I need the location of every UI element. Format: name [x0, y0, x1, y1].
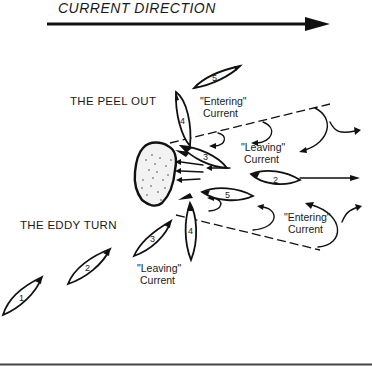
peel-out-boat-2: 2 [251, 171, 300, 185]
leaving-current-top-line1: "Leaving" [241, 141, 286, 153]
peel-out-label: THE PEEL OUT [70, 95, 156, 107]
eddy-turn-label: THE EDDY TURN [20, 219, 117, 231]
boat-number: 3 [203, 152, 208, 162]
eddy-maneuvers-diagram: CURRENT DIRECTION [0, 0, 372, 366]
boat-number: 2 [273, 175, 278, 185]
boat-number: 2 [85, 263, 90, 273]
peel-out-boat-5: 5 [194, 66, 240, 88]
leaving-current-bottom-line2: Current [140, 274, 175, 286]
eddy-turn-boat-4: 4 [186, 203, 197, 260]
leaving-current-top-line2: Current [244, 153, 279, 165]
entering-current-top-line2: Current [203, 107, 238, 119]
boat-number: 5 [225, 190, 230, 200]
current-direction-arrow [47, 17, 330, 31]
entering-current-bottom-line1: "Entering" [284, 211, 331, 223]
peel-out-boat-3: 3 [181, 146, 227, 168]
leaving-current-bottom-line1: "Leaving" [137, 262, 182, 274]
boat-number: 3 [150, 234, 155, 244]
boat-number: 1 [19, 293, 24, 303]
eddy-turn-boat-1: 1 [3, 277, 42, 315]
boat-number: 4 [180, 116, 185, 126]
entering-current-bottom-line2: Current [288, 223, 323, 235]
eddy-turn-boat-2: 2 [68, 249, 110, 284]
peel-out-arrow [300, 175, 360, 181]
entering-current-top-line1: "Entering" [200, 95, 247, 107]
peel-out-boat-4: 4 [175, 92, 190, 146]
boat-number: 4 [188, 226, 193, 236]
eddy-line-top [170, 104, 330, 143]
rock [135, 143, 176, 206]
boat-number: 5 [212, 73, 217, 83]
eddy-turn-boat-3: 3 [134, 221, 171, 256]
current-direction-title: CURRENT DIRECTION [58, 0, 216, 16]
